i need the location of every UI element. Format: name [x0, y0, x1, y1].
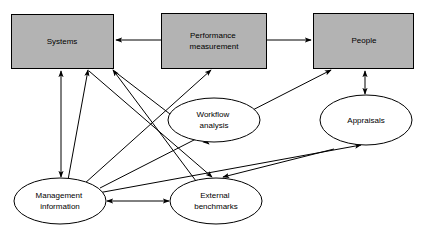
node-appraisals[interactable]: Appraisals [320, 95, 412, 145]
edge-workflow-analysis-to-external-benchmarks [223, 149, 334, 177]
node-performance-measurement[interactable]: Performance measurement [162, 14, 267, 69]
node-external-benchmarks-shape[interactable] [170, 178, 262, 224]
relationship-diagram: Systems Performance measurement People [0, 0, 426, 234]
node-appraisals-label: Appraisals [347, 116, 384, 125]
node-management-information-shape[interactable] [14, 178, 106, 224]
diagram-canvas: Systems Performance measurement People [0, 0, 426, 234]
node-systems[interactable]: Systems [12, 15, 114, 69]
nodes-layer: Systems Performance measurement People [12, 14, 414, 225]
edge-management-information-to-systems [68, 70, 88, 180]
node-people[interactable]: People [314, 14, 414, 69]
node-workflow-analysis-shape[interactable] [168, 98, 260, 142]
node-management-information[interactable]: Management information [14, 178, 106, 224]
node-systems-label: Systems [47, 37, 78, 46]
node-external-benchmarks[interactable]: External benchmarks [170, 178, 262, 224]
node-workflow-analysis[interactable]: Workflow analysis [168, 98, 260, 142]
node-performance-measurement-shape[interactable] [162, 14, 267, 69]
node-people-label: People [352, 36, 377, 45]
